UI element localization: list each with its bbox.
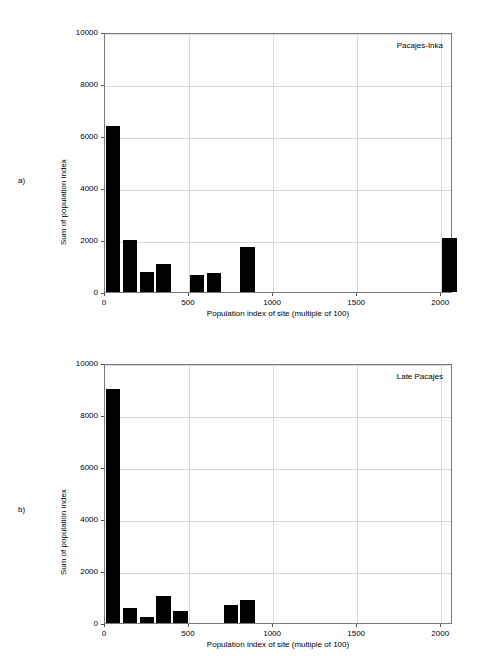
gridline-horizontal	[105, 34, 451, 35]
bar	[156, 596, 170, 623]
gridline-horizontal	[105, 86, 451, 87]
y-axis-title-a: Sum of population index	[60, 159, 68, 245]
bar	[173, 611, 187, 623]
gridline-vertical	[189, 365, 190, 623]
x-tick-label: 0	[79, 630, 129, 638]
gridline-vertical	[357, 365, 358, 623]
x-tick-mark	[104, 624, 105, 627]
figure-panel-a: a) Sum of population index 0200040006000…	[0, 0, 486, 332]
gridline-horizontal	[105, 417, 451, 418]
y-tick-label: 8000	[40, 81, 98, 89]
bar	[106, 126, 120, 292]
x-tick-mark	[356, 293, 357, 296]
bar	[240, 600, 254, 623]
bar	[123, 608, 137, 623]
bar	[140, 617, 154, 623]
bar	[190, 275, 204, 292]
series-annotation-a: Pacajes-Inka	[397, 42, 443, 50]
bar	[442, 238, 456, 292]
x-tick-mark	[188, 293, 189, 296]
x-tick-mark	[272, 624, 273, 627]
y-tick-label: 0	[40, 289, 98, 297]
gridline-horizontal	[105, 573, 451, 574]
y-tick-label: 8000	[40, 412, 98, 420]
plot-area-b: Late Pacajes	[104, 364, 452, 624]
y-tick-label: 2000	[40, 237, 98, 245]
gridline-horizontal	[105, 521, 451, 522]
gridline-horizontal	[105, 365, 451, 366]
y-axis-title-b: Sum of population index	[60, 489, 68, 575]
x-tick-mark	[188, 624, 189, 627]
y-tick-label: 4000	[40, 185, 98, 193]
gridline-horizontal	[105, 242, 451, 243]
bar	[207, 273, 221, 292]
y-tick-label: 4000	[40, 516, 98, 524]
x-tick-label: 1500	[331, 630, 381, 638]
x-tick-label: 1500	[331, 299, 381, 307]
bar	[156, 264, 170, 292]
series-annotation-b: Late Pacajes	[397, 373, 443, 381]
gridline-vertical	[357, 34, 358, 292]
gridline-vertical	[189, 34, 190, 292]
x-tick-mark	[356, 624, 357, 627]
bar	[123, 240, 137, 292]
bar	[140, 272, 154, 292]
y-tick-label: 6000	[40, 133, 98, 141]
y-tick-label: 10000	[40, 29, 98, 37]
x-tick-label: 500	[163, 630, 213, 638]
gridline-horizontal	[105, 138, 451, 139]
y-tick-label: 0	[40, 620, 98, 628]
bar	[224, 605, 238, 623]
x-tick-label: 500	[163, 299, 213, 307]
x-tick-mark	[104, 293, 105, 296]
y-tick-label: 2000	[40, 568, 98, 576]
gridline-vertical	[273, 34, 274, 292]
x-tick-label: 0	[79, 299, 129, 307]
x-tick-mark	[440, 293, 441, 296]
x-axis-title-a: Population index of site (multiple of 10…	[104, 310, 452, 318]
gridline-vertical	[273, 365, 274, 623]
panel-letter-b: b)	[18, 505, 25, 515]
bar	[106, 389, 120, 623]
plot-area-a: Pacajes-Inka	[104, 33, 452, 293]
y-tick-label: 10000	[40, 360, 98, 368]
bar	[240, 247, 254, 292]
figure-panel-b: b) Sum of population index 0200040006000…	[0, 333, 486, 665]
gridline-horizontal	[105, 190, 451, 191]
x-tick-mark	[272, 293, 273, 296]
x-axis-title-b: Population index of site (multiple of 10…	[104, 641, 452, 649]
x-tick-label: 2000	[415, 299, 465, 307]
gridline-horizontal	[105, 469, 451, 470]
x-tick-label: 1000	[247, 299, 297, 307]
x-tick-mark	[440, 624, 441, 627]
gridline-vertical	[441, 365, 442, 623]
panel-letter-a: a)	[18, 176, 25, 186]
x-tick-label: 2000	[415, 630, 465, 638]
y-tick-label: 6000	[40, 464, 98, 472]
x-tick-label: 1000	[247, 630, 297, 638]
